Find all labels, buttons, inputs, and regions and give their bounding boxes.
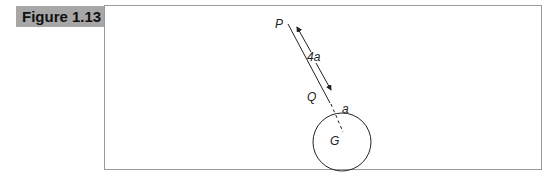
label-a: a: [342, 102, 349, 116]
label-p: P: [275, 17, 283, 31]
diagram: P 4a Q a G: [0, 0, 557, 181]
label-4a: 4a: [307, 50, 321, 64]
label-g: G: [330, 134, 339, 148]
arrow-up-icon: [297, 27, 311, 52]
sphere-circle: [313, 113, 371, 171]
arrow-down-icon: [316, 63, 331, 90]
label-q: Q: [307, 90, 316, 104]
